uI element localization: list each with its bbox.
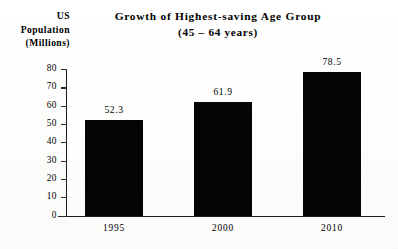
y-tick-mark-30 [61,161,67,162]
y-tick-label-80: 80 [24,63,57,73]
y-tick-label-0: 0 [24,209,57,219]
bar-value-label-2010: 78.5 [322,56,341,67]
plot-area: 80706050403020100 52.361.978.5 199520002… [0,0,398,249]
bar-value-label-2000: 61.9 [213,86,232,97]
y-tick-label-30: 30 [24,154,57,164]
y-tick-mark-80 [61,69,67,70]
y-tick-mark-50 [61,124,67,125]
y-tick-mark-40 [61,142,67,143]
y-tick-mark-10 [61,197,67,198]
category-label-1995: 1995 [103,223,125,233]
bar-1995 [85,120,143,216]
category-label-2000: 2000 [212,223,234,233]
y-tick-mark-0 [61,216,67,217]
bar-2000 [194,102,252,215]
y-tick-label-40: 40 [24,136,57,146]
y-tick-label-10: 10 [24,191,57,201]
y-tick-label-60: 60 [24,99,57,109]
y-tick-mark-20 [61,179,67,180]
y-tick-label-50: 50 [24,118,57,128]
x-axis-line [58,216,385,217]
y-tick-label-20: 20 [24,173,57,183]
category-label-2010: 2010 [321,223,343,233]
y-tick-mark-60 [61,106,67,107]
y-tick-label-70: 70 [24,81,57,91]
y-tick-mark-70 [61,87,67,88]
bar-value-label-1995: 52.3 [104,104,123,115]
bar-chart-figure: Growth of Highest-saving Age Group (45 –… [0,0,398,249]
bar-2010 [303,72,361,216]
